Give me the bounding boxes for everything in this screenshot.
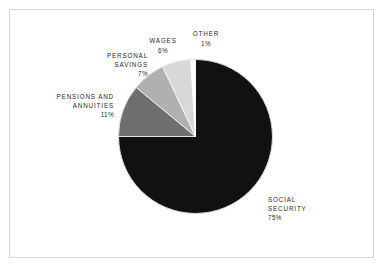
slice-label-personal-savings-percent: 7% xyxy=(86,70,148,78)
pie-chart-figure: SOCIAL SECURITY 75% PENSIONS AND ANNUITI… xyxy=(0,0,385,269)
slice-label-other-text: OTHER xyxy=(193,30,219,37)
slice-label-social-security: SOCIAL SECURITY 75% xyxy=(268,188,346,231)
slice-label-social-security-percent: 75% xyxy=(268,214,346,222)
slice-label-pensions-and-annuities-text: PENSIONS AND ANNUITIES xyxy=(57,93,114,108)
slice-label-pensions-and-annuities-percent: 11% xyxy=(32,111,114,119)
slice-label-other-percent: 1% xyxy=(178,40,234,48)
slice-label-wages-text: WAGES xyxy=(149,37,176,44)
slice-label-pensions-and-annuities: PENSIONS AND ANNUITIES 11% xyxy=(32,85,114,128)
slice-label-social-security-text: SOCIAL SECURITY xyxy=(268,196,307,211)
slice-label-other: OTHER 1% xyxy=(178,22,234,57)
